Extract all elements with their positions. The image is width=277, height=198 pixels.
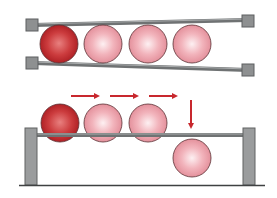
top-left-lower-block — [26, 57, 38, 69]
bottom-rail — [36, 134, 244, 135]
top-right-lower-block — [242, 64, 254, 76]
dropped-ball-light — [173, 139, 211, 177]
top-ball-3-light — [129, 25, 167, 63]
top-rail-lower — [33, 62, 248, 70]
top-panel — [26, 15, 254, 76]
ball-rail-diagram — [0, 0, 277, 198]
top-right-upper-block — [242, 15, 254, 27]
top-ball-1-dark — [40, 25, 78, 63]
bottom-panel — [19, 96, 265, 186]
top-ball-4-light — [173, 25, 211, 63]
right-post — [243, 128, 255, 185]
top-left-upper-block — [26, 19, 38, 31]
left-post — [25, 128, 37, 185]
top-ball-2-light — [84, 25, 122, 63]
top-rail-upper — [33, 19, 248, 25]
